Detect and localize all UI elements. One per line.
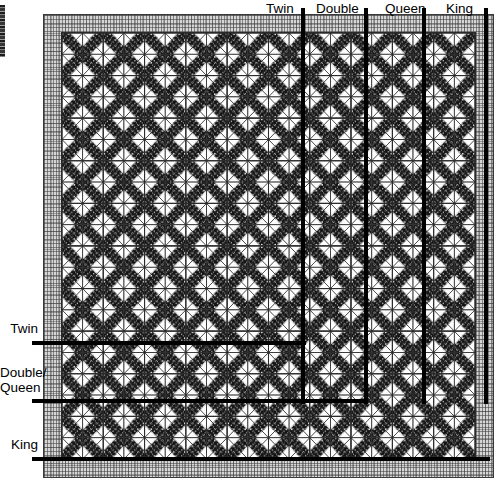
size-label-double-queen-line2: Queen	[0, 380, 38, 395]
size-rule-double-queen-horizontal	[32, 399, 368, 403]
size-label-twin-line1: Twin	[0, 321, 38, 336]
size-label-double-top: Double	[316, 1, 359, 16]
size-label-twin-top: Twin	[266, 1, 294, 16]
size-rule-twin-horizontal	[32, 341, 306, 345]
size-label-twin-left: Twin	[0, 321, 38, 336]
page-edge-artifact	[0, 5, 5, 57]
size-rule-queen-vertical	[422, 8, 426, 404]
size-label-double-queen-left: Double/Queen	[0, 365, 38, 395]
quilt-size-diagram: TwinDoubleQueenKingTwinDouble/QueenKing	[0, 0, 504, 493]
pieced-block-grid	[62, 33, 475, 459]
size-rule-king-vertical	[484, 8, 488, 404]
size-rule-double-vertical	[364, 8, 368, 404]
size-label-double-queen-line1: Double/	[0, 365, 38, 380]
quilt-illustration	[43, 14, 494, 478]
size-rule-king-horizontal	[32, 457, 490, 461]
size-label-king-line1: King	[0, 437, 38, 452]
size-label-queen-top: Queen	[385, 1, 426, 16]
size-label-king-left: King	[0, 437, 38, 452]
quilt-center-field	[61, 32, 476, 460]
size-label-king-top: King	[446, 1, 473, 16]
